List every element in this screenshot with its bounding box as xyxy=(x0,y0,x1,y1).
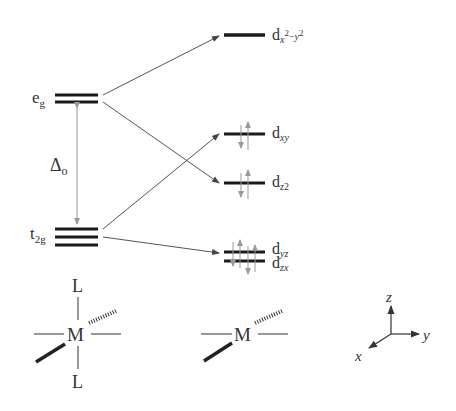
z-axis-label: z xyxy=(385,289,392,305)
t2g-label: t2g xyxy=(30,224,46,245)
metal-center: M xyxy=(67,324,84,345)
correlation-lines xyxy=(103,36,219,253)
t2g-level xyxy=(55,229,98,245)
ligand-top: L xyxy=(72,276,83,296)
octahedral-complex: L M L xyxy=(34,276,121,392)
hashed-bond xyxy=(255,311,282,323)
metal-center: M xyxy=(234,324,251,345)
dyz-dzx-levels xyxy=(224,240,265,274)
eg-label: eg xyxy=(32,88,46,109)
crystal-field-diagram: eg t2g Δo dx2−y2 dxy dz2 xyxy=(0,0,456,411)
dz2-level xyxy=(224,170,265,199)
x-axis-label: x xyxy=(354,348,362,364)
dxy-label: dxy xyxy=(272,124,289,143)
y-axis-label: y xyxy=(421,327,430,343)
ligand-bottom: L xyxy=(72,372,83,392)
x-axis xyxy=(369,334,391,348)
dx2y2-label: dx2−y2 xyxy=(272,26,304,45)
dxy-level xyxy=(224,122,265,150)
dz2-label: dz2 xyxy=(272,173,289,192)
coordinate-axes: z y x xyxy=(354,289,430,364)
wedge-bond xyxy=(204,343,232,361)
splitting-label: Δo xyxy=(50,155,68,178)
eg-level xyxy=(55,95,98,102)
wedge-bond xyxy=(36,344,65,362)
square-planar-complex: M xyxy=(201,311,288,361)
hashed-bond xyxy=(89,311,116,323)
